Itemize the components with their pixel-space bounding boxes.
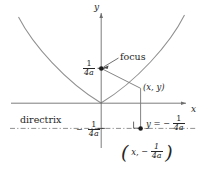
directrix-equation-sign: −	[163, 119, 170, 128]
foot-point-x: x,	[131, 148, 139, 157]
focus-label: focus	[120, 52, 146, 62]
directrix-equation-fraction: 1 4a	[173, 115, 185, 133]
foot-point-numerator: 1	[151, 143, 163, 151]
focus-leader-line	[104, 58, 119, 67]
foot-point-close-paren: )	[165, 141, 172, 163]
foot-point-label: ( x, − 1 4a )	[121, 143, 173, 161]
directrix-ordinate-denominator: 4a	[88, 129, 100, 138]
foot-point-open-paren: (	[121, 141, 128, 163]
directrix-equation-label: y = − 1 4a	[146, 115, 185, 133]
foot-point-dot	[138, 126, 143, 131]
foot-point-fraction: 1 4a	[151, 143, 163, 161]
focus-ordinate-fraction: 1 4a	[83, 60, 95, 78]
x-axis-arrowhead	[181, 101, 186, 105]
focus-ordinate-denominator: 4a	[83, 68, 95, 77]
directrix-equation-denominator: 4a	[173, 123, 185, 132]
directrix-equation-numerator: 1	[173, 115, 185, 123]
foot-point-denominator: 4a	[151, 151, 163, 160]
parabola-figure: y x focus 1 4a (x, y) directrix − 1 4a y…	[0, 0, 203, 169]
directrix-ordinate-sign: −	[76, 125, 83, 134]
focus-ordinate-numerator: 1	[83, 60, 95, 68]
directrix-ordinate-fraction: 1 4a	[88, 121, 100, 139]
foot-point-sign: −	[141, 147, 148, 156]
point-on-parabola-label: (x, y)	[143, 83, 165, 92]
directrix-ordinate-numerator: 1	[88, 121, 100, 129]
focus-point-dot	[99, 66, 104, 71]
y-axis-label: y	[94, 3, 99, 12]
directrix-label: directrix	[20, 115, 61, 125]
focal-radius-segment	[101, 69, 140, 89]
y-axis-arrowhead	[99, 13, 103, 18]
directrix-equation-lhs: y =	[146, 120, 161, 129]
directrix-ordinate-label: − 1 4a	[76, 121, 100, 139]
focus-ordinate-label: 1 4a	[83, 60, 95, 78]
x-axis-label: x	[191, 105, 196, 114]
